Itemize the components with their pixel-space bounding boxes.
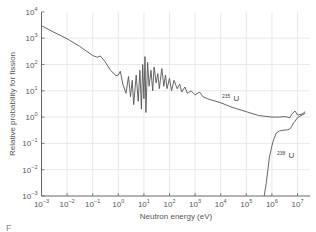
x-tick-label: 106 [266, 198, 278, 209]
x-tick-label: 101 [138, 198, 150, 209]
y-tick-label: 102 [26, 59, 38, 70]
curve-label-238U: 238 U [277, 150, 295, 160]
x-tick-label: 103 [189, 198, 201, 209]
y-tick-label: 101 [26, 85, 38, 96]
figure-caption-fragment: F [6, 223, 12, 232]
fission-probability-chart: 10−310−210−1100101102103104105106107 10−… [0, 0, 316, 232]
x-axis-ticks: 10−310−210−1100101102103104105106107 [34, 193, 304, 209]
x-tick-label: 10−3 [34, 198, 49, 209]
x-tick-label: 105 [240, 198, 252, 209]
curve-labels: 235 U238 U [222, 93, 295, 160]
x-tick-label: 10−1 [85, 198, 100, 209]
x-tick-label: 102 [164, 198, 176, 209]
x-tick-label: 10−2 [60, 198, 75, 209]
y-tick-label: 104 [26, 6, 38, 17]
y-tick-label: 103 [26, 32, 38, 43]
curves [42, 26, 306, 196]
x-tick-label: 104 [215, 198, 227, 209]
x-tick-label: 107 [292, 198, 304, 209]
y-axis-title: Relative probability for fission [8, 52, 17, 156]
y-tick-label: 10−2 [22, 164, 37, 175]
x-axis-title: Neutron energy (eV) [140, 212, 213, 221]
curve-label-235U: 235 U [222, 93, 240, 103]
curve-235U [42, 26, 306, 118]
grid-lines [42, 12, 311, 196]
x-tick-label: 100 [112, 198, 124, 209]
y-tick-label: 100 [26, 111, 38, 122]
axes [42, 12, 311, 196]
y-tick-label: 10−1 [22, 137, 37, 148]
